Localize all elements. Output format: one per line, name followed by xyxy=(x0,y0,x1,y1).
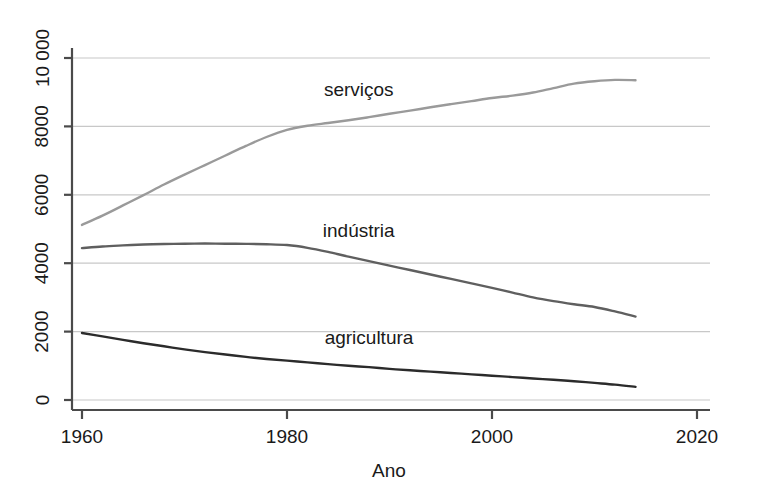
x-axis-title: Ano xyxy=(372,460,406,481)
series-label-indústria: indústria xyxy=(323,220,395,241)
series-inline-labels: serviçosindústriaagricultura xyxy=(323,79,414,348)
line-chart: 0200040006000800010 000 1960198020002020… xyxy=(0,0,757,501)
x-tick-label-2000: 2000 xyxy=(471,426,513,447)
y-tick-label-2000: 2000 xyxy=(32,310,53,352)
y-tick-labels: 0200040006000800010 000 xyxy=(32,29,53,405)
series-label-agricultura: agricultura xyxy=(325,327,414,348)
x-tick-labels: 1960198020002020 xyxy=(61,426,718,447)
y-tick-label-4000: 4000 xyxy=(32,242,53,284)
x-tick-label-1960: 1960 xyxy=(61,426,103,447)
y-tick-label-8000: 8000 xyxy=(32,105,53,147)
y-tick-label-6000: 6000 xyxy=(32,174,53,216)
x-axis-ticks xyxy=(82,410,697,419)
series-line-indústria xyxy=(82,244,636,317)
series-label-serviços: serviços xyxy=(324,79,394,100)
y-tick-label-10000: 10 000 xyxy=(32,29,53,87)
series-line-serviços xyxy=(82,80,636,225)
y-tick-label-0: 0 xyxy=(32,395,53,406)
x-tick-label-2020: 2020 xyxy=(676,426,718,447)
x-tick-label-1980: 1980 xyxy=(266,426,308,447)
chart-container: 0200040006000800010 000 1960198020002020… xyxy=(0,0,757,501)
y-axis-ticks xyxy=(64,58,72,400)
